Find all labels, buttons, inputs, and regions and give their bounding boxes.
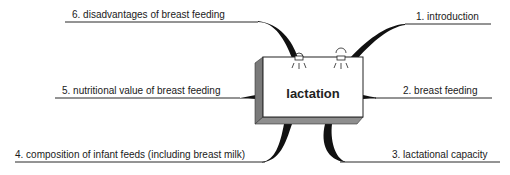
- branch-5-label: 5. nutritional value of breast feeding: [62, 85, 220, 97]
- branch-1-label: 1. introduction: [416, 11, 479, 23]
- branch-3-label: 3. lactational capacity: [392, 149, 488, 161]
- branch-4-label: 4. composition of infant feeds (includin…: [15, 149, 245, 161]
- branch-1-connector: [350, 24, 491, 58]
- branch-6-label: 6. disadvantages of breast feeding: [72, 9, 225, 21]
- branch-6-connector: [65, 21, 298, 58]
- central-topic-label: lactation: [263, 86, 363, 101]
- branch-2-label: 2. breast feeding: [403, 85, 478, 97]
